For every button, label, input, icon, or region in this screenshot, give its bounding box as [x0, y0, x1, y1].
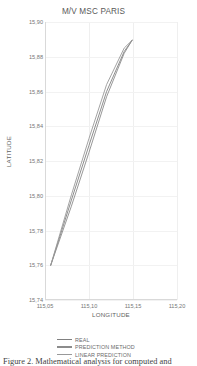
legend-line-swatch: [57, 339, 72, 340]
x-axis-title: LONGITUDE: [45, 311, 177, 318]
x-axis-tick-label: 115,05: [25, 303, 65, 309]
y-axis-tick-label: 15,88: [3, 54, 43, 60]
plot-area: [45, 22, 177, 300]
x-axis-tick-label: 115,10: [69, 303, 109, 309]
legend-line-swatch: [57, 354, 72, 355]
legend-item[interactable]: PREDICTION METHOD: [57, 344, 177, 351]
figure-caption: Figure 2. Mathematical analysis for comp…: [3, 357, 187, 366]
series-lines: [45, 22, 177, 300]
y-axis-tick-label: 15,86: [3, 89, 43, 95]
chart-title: M/V MSC PARIS: [0, 7, 187, 16]
y-axis-title: LATITUDE: [5, 122, 12, 182]
chart-legend: REALPREDICTION METHODLINEAR PREDICTION: [57, 336, 177, 359]
y-axis-tick-label: 15,76: [3, 262, 43, 268]
gridline-vertical: [177, 22, 178, 300]
legend-line-swatch: [57, 346, 72, 347]
gridline-horizontal: [45, 300, 177, 301]
legend-item[interactable]: REAL: [57, 336, 177, 343]
x-axis-tick-label: 115,20: [157, 303, 197, 309]
series-line: [51, 40, 132, 265]
legend-label: PREDICTION METHOD: [75, 344, 135, 350]
y-axis-tick-label: 15,80: [3, 193, 43, 199]
x-axis-tick-label: 115,15: [113, 303, 153, 309]
y-axis-tick-label: 15,78: [3, 228, 43, 234]
legend-label: REAL: [75, 337, 89, 343]
y-axis-tick-label: 15,90: [3, 19, 43, 25]
